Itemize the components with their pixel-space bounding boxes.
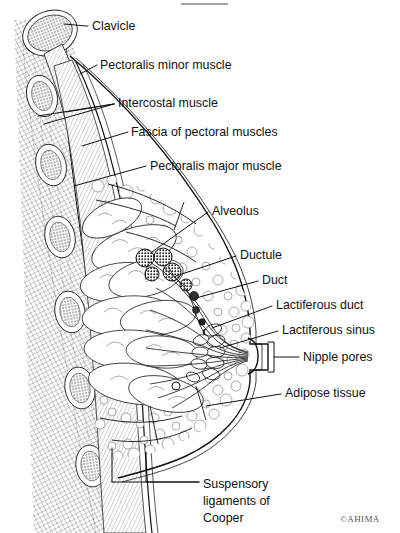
label-pectoralis-major: Pectoralis major muscle	[150, 159, 282, 173]
label-pectoralis-minor: Pectoralis minor muscle	[100, 58, 232, 72]
label-suspensory-line-2: ligaments of	[203, 494, 270, 508]
label-intercostal-text: Intercostal muscle	[118, 96, 218, 110]
label-nipple-pores-text: Nipple pores	[303, 350, 373, 364]
label-pectoralis-minor-text: Pectoralis minor muscle	[100, 58, 232, 72]
breast-anatomy-diagram: Clavicle Pectoralis minor muscle Interco…	[0, 0, 400, 533]
label-pectoralis-major-text: Pectoralis major muscle	[150, 159, 282, 173]
copyright-notice: ©AHIMA	[340, 514, 380, 524]
label-suspensory-line-1: Suspensory	[203, 477, 269, 491]
label-lactiferous-duct: Lactiferous duct	[276, 298, 364, 312]
label-intercostal: Intercostal muscle	[118, 96, 218, 110]
alveolus	[145, 267, 159, 281]
label-lactiferous-duct-text: Lactiferous duct	[276, 298, 364, 312]
label-adipose-tissue-text: Adipose tissue	[285, 386, 366, 400]
label-adipose-tissue: Adipose tissue	[285, 386, 366, 400]
label-suspensory-line-3: Cooper	[203, 511, 244, 525]
diagram-canvas: Clavicle Pectoralis minor muscle Interco…	[0, 0, 400, 533]
label-nipple-pores: Nipple pores	[303, 350, 373, 364]
label-ductule: Ductule	[240, 248, 282, 262]
label-duct: Duct	[262, 273, 288, 287]
label-lactiferous-sinus-text: Lactiferous sinus	[282, 323, 375, 337]
label-clavicle: Clavicle	[92, 19, 135, 33]
label-alveolus-text: Alveolus	[212, 204, 259, 218]
alveolus	[136, 249, 154, 267]
label-duct-text: Duct	[262, 273, 288, 287]
label-fascia-text: Fascia of pectoral muscles	[131, 125, 278, 139]
label-lactiferous-sinus: Lactiferous sinus	[282, 323, 375, 337]
label-clavicle-text: Clavicle	[92, 19, 135, 33]
label-fascia: Fascia of pectoral muscles	[131, 125, 278, 139]
alveolus	[163, 263, 181, 281]
label-alveolus: Alveolus	[212, 204, 259, 218]
label-ductule-text: Ductule	[240, 248, 282, 262]
